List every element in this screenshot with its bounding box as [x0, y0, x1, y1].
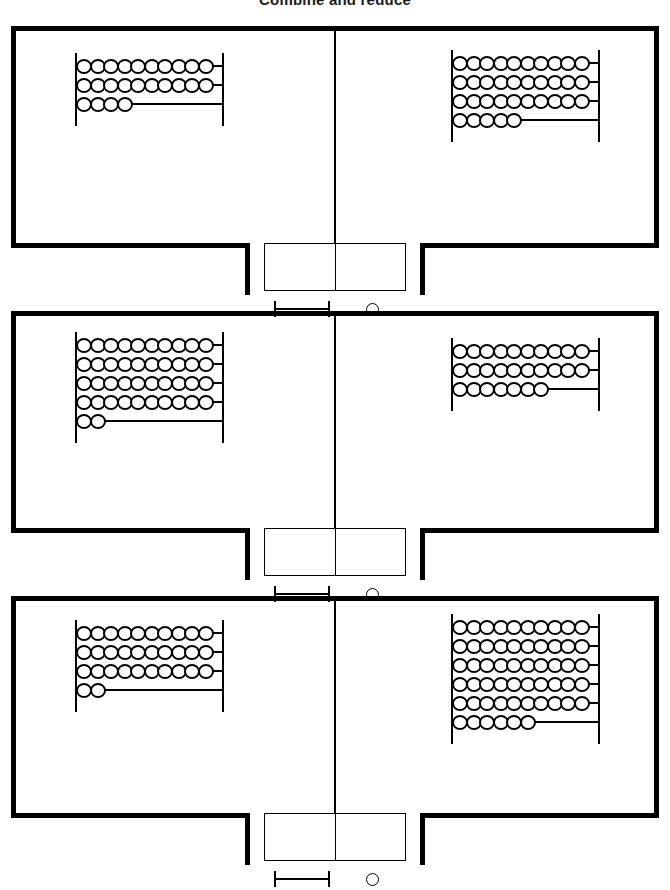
abacus-bead-row: [452, 715, 533, 730]
abacus-bead: [506, 113, 522, 128]
abacus-bead-row: [76, 414, 103, 429]
page-title: Combine and reduce: [0, 0, 670, 8]
abacus-bead: [198, 376, 214, 391]
abacus-bead: [574, 658, 590, 673]
abacus-bead: [574, 639, 590, 654]
problem-panel: [11, 311, 659, 533]
place-value-legend: [264, 868, 406, 890]
abacus-bead: [574, 344, 590, 359]
abacus-post-right: [222, 332, 224, 443]
abacus-bead: [198, 357, 214, 372]
panel-bottom-edge: [11, 243, 250, 248]
panel-bottom-edge: [420, 243, 659, 248]
abacus-bead-row: [76, 78, 211, 93]
abacus-bead: [198, 645, 214, 660]
abacus-bead-row: [76, 664, 211, 679]
abacus-left: [75, 332, 224, 443]
panel-bottom-edge: [420, 528, 659, 533]
abacus-bead: [117, 97, 133, 112]
abacus-bead-row: [452, 344, 587, 359]
abacus-bead-row: [76, 395, 211, 410]
abacus-right: [451, 50, 600, 142]
panel-frame: [11, 596, 659, 818]
ten-rod-icon: [274, 871, 330, 887]
abacus-bead: [574, 677, 590, 692]
panel-bottom-edge: [11, 813, 250, 818]
panel-center-divider: [334, 601, 336, 841]
answer-cell-ones[interactable]: [335, 529, 405, 575]
abacus-bead: [520, 715, 536, 730]
abacus-bead: [574, 75, 590, 90]
abacus-bead-row: [76, 683, 103, 698]
abacus-bead: [198, 338, 214, 353]
panel-bottom-edge: [420, 813, 659, 818]
abacus-bead-row: [76, 626, 211, 641]
abacus-bead-row: [76, 59, 211, 74]
abacus-bead: [198, 78, 214, 93]
panel-center-divider: [334, 316, 336, 556]
panel-frame: [11, 26, 659, 248]
abacus-bead: [574, 94, 590, 109]
answer-cell-tens[interactable]: [265, 244, 335, 290]
abacus-bead-row: [452, 113, 520, 128]
abacus-bead: [574, 620, 590, 635]
abacus-bead-row: [452, 56, 587, 71]
abacus-bead: [574, 363, 590, 378]
answer-box[interactable]: [264, 243, 406, 291]
abacus-bead-row: [452, 696, 587, 711]
abacus-bead-row: [452, 677, 587, 692]
abacus-bead: [533, 382, 549, 397]
answer-box[interactable]: [264, 813, 406, 861]
answer-cell-tens[interactable]: [265, 814, 335, 860]
abacus-bead-row: [452, 639, 587, 654]
abacus-bead-row: [452, 75, 587, 90]
panel-center-divider: [334, 31, 336, 271]
abacus-bead-row: [452, 94, 587, 109]
abacus-post-right: [598, 614, 600, 744]
abacus-bead-row: [76, 97, 130, 112]
abacus-bead-row: [452, 658, 587, 673]
answer-cell-ones[interactable]: [335, 244, 405, 290]
abacus-bead-row: [76, 645, 211, 660]
abacus-bead-row: [76, 338, 211, 353]
panel-frame: [11, 311, 659, 533]
abacus-left: [75, 53, 224, 126]
abacus-bead: [90, 683, 106, 698]
answer-cell-tens[interactable]: [265, 529, 335, 575]
abacus-bead: [198, 59, 214, 74]
abacus-post-right: [222, 53, 224, 126]
abacus-left: [75, 620, 224, 712]
abacus-bead: [574, 56, 590, 71]
answer-box[interactable]: [264, 528, 406, 576]
problem-panel: [11, 26, 659, 248]
abacus-bead-row: [452, 620, 587, 635]
abacus-right: [451, 338, 600, 411]
problem-panel: [11, 596, 659, 818]
answer-cell-ones[interactable]: [335, 814, 405, 860]
abacus-bead: [198, 626, 214, 641]
abacus-bead: [90, 414, 106, 429]
panel-bottom-edge: [11, 528, 250, 533]
abacus-bead-row: [76, 357, 211, 372]
abacus-bead: [198, 664, 214, 679]
abacus-post-right: [598, 338, 600, 411]
abacus-right: [451, 614, 600, 744]
abacus-bead: [574, 696, 590, 711]
one-bead-icon: [366, 873, 379, 886]
abacus-bead-row: [452, 363, 587, 378]
abacus-bead: [198, 395, 214, 410]
abacus-bead-row: [452, 382, 547, 397]
abacus-bead-row: [76, 376, 211, 391]
